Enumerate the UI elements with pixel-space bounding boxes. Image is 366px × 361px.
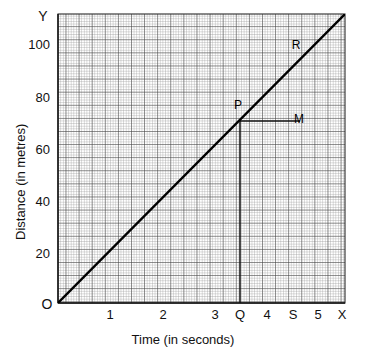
y-tick-label-100: 100 xyxy=(10,38,50,51)
x-tick-label-5: 5 xyxy=(306,308,330,321)
x-tick-label-4: 4 xyxy=(255,308,279,321)
y-tick-label-60: 60 xyxy=(10,143,50,156)
x-tick-label-s: S xyxy=(281,308,305,321)
x-tick-label-3: 3 xyxy=(203,308,227,321)
y-axis-title: Distance (in metres) xyxy=(14,124,27,240)
x-tick-label-2: 2 xyxy=(151,308,175,321)
y-tick-label-20: 20 xyxy=(10,247,50,260)
point-label-r: R xyxy=(288,39,304,51)
x-axis-title: Time (in seconds) xyxy=(0,333,366,346)
x-axis-end-label: X xyxy=(330,308,354,321)
point-label-p: P xyxy=(230,99,246,111)
x-tick-label-q: Q xyxy=(228,308,252,321)
origin-label: O xyxy=(37,297,57,311)
point-label-m: M xyxy=(291,113,307,125)
y-tick-label-40: 40 xyxy=(10,195,50,208)
y-tick-label-80: 80 xyxy=(10,91,50,104)
x-tick-label-1: 1 xyxy=(98,308,122,321)
y-axis-end-label: Y xyxy=(33,9,53,23)
